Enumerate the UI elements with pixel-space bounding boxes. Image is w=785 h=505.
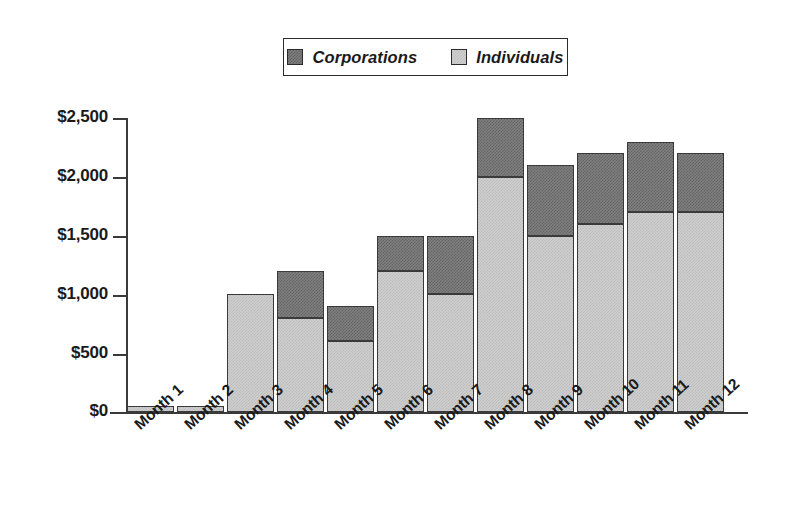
bar-group-month-7[interactable]	[427, 236, 474, 412]
bar-segment-corporations-month-9[interactable]	[527, 165, 574, 236]
bar-group-month-8[interactable]	[477, 118, 524, 412]
bar-group-month-11[interactable]	[627, 142, 674, 412]
bar-group-month-9[interactable]	[527, 165, 574, 412]
bar-segment-corporations-month-7[interactable]	[427, 236, 474, 295]
bar-group-month-12[interactable]	[677, 153, 724, 412]
stacked-bar-chart: Corporations Individuals $2,500 $2,000 $…	[0, 0, 785, 505]
bar-segment-corporations-month-6[interactable]	[377, 236, 424, 271]
bar-segment-corporations-month-12[interactable]	[677, 153, 724, 212]
bar-segment-corporations-month-4[interactable]	[277, 271, 324, 318]
bar-segment-corporations-month-11[interactable]	[627, 142, 674, 213]
bar-segment-corporations-month-10[interactable]	[577, 153, 624, 224]
bar-segment-corporations-month-8[interactable]	[477, 118, 524, 177]
bar-segment-corporations-month-5[interactable]	[327, 306, 374, 341]
bar-segment-individuals-month-8[interactable]	[477, 177, 524, 412]
bar-segment-individuals-month-10[interactable]	[577, 224, 624, 412]
bar-group-month-10[interactable]	[577, 153, 624, 412]
bar-segment-individuals-month-9[interactable]	[527, 236, 574, 412]
bar-group-month-6[interactable]	[377, 236, 424, 412]
